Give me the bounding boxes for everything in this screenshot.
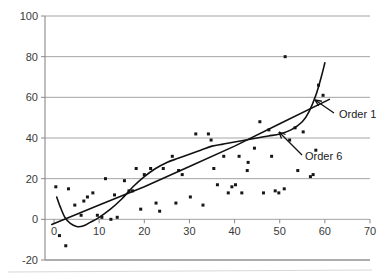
data-point-marker <box>116 216 119 219</box>
x-tick-label-0: 0 <box>51 225 57 237</box>
data-point-marker <box>230 185 233 188</box>
y-tick-label-20: 20 <box>26 173 38 185</box>
x-tick-label-40: 40 <box>228 225 240 237</box>
data-point-marker <box>123 179 126 182</box>
data-point-marker <box>135 167 138 170</box>
data-point-marker <box>309 175 312 178</box>
scatter-chart-figure: -20020406080100010203040506070 Order 1Or… <box>0 0 390 279</box>
data-point-marker <box>201 204 204 207</box>
data-point-marker <box>86 195 89 198</box>
x-tick-label-30: 30 <box>183 225 195 237</box>
chart-canvas: -20020406080100010203040506070 Order 1Or… <box>0 0 390 279</box>
y-tick-label-100: 100 <box>20 10 38 22</box>
fit-curve-order-1 <box>52 99 330 224</box>
data-point-marker <box>247 161 250 164</box>
annotation-arrow-order-6 <box>279 132 302 155</box>
data-point-marker <box>104 177 107 180</box>
fit-curves-group <box>52 63 330 227</box>
x-tick-label-10: 10 <box>93 225 105 237</box>
data-point-marker <box>270 155 273 158</box>
x-tick-label-20: 20 <box>138 225 150 237</box>
y-tick-label-40: 40 <box>26 132 38 144</box>
data-point-marker <box>58 234 61 237</box>
x-tick-label-70: 70 <box>364 225 376 237</box>
data-point-marker <box>174 202 177 205</box>
y-tick-label-80: 80 <box>26 51 38 63</box>
y-tick-label--20: -20 <box>22 254 38 266</box>
annotation-label-order-6: Order 6 <box>305 150 342 162</box>
data-point-marker <box>64 244 67 247</box>
scan-artifact-line <box>8 270 372 272</box>
annotation-label-order-1: Order 1 <box>339 108 376 120</box>
data-point-marker <box>155 202 158 205</box>
data-point-marker <box>212 167 215 170</box>
data-point-marker <box>312 173 315 176</box>
y-tick-label-0: 0 <box>32 213 38 225</box>
data-point-marker <box>253 147 256 150</box>
data-point-marker <box>222 155 225 158</box>
data-point-marker <box>284 55 287 58</box>
gridlines-group <box>45 16 370 260</box>
data-point-marker <box>207 132 210 135</box>
data-point-marker <box>181 173 184 176</box>
data-point-marker <box>96 214 99 217</box>
data-point-marker <box>240 191 243 194</box>
data-point-marker <box>54 185 57 188</box>
data-point-marker <box>246 169 249 172</box>
data-point-marker <box>277 191 280 194</box>
data-point-marker <box>113 193 116 196</box>
data-point-marker <box>274 189 277 192</box>
data-point-marker <box>234 183 237 186</box>
scan-artifact-group <box>8 270 372 272</box>
data-point-marker <box>162 167 165 170</box>
data-point-marker <box>227 191 230 194</box>
data-point-marker <box>322 94 325 97</box>
data-point-marker <box>216 183 219 186</box>
data-point-marker <box>194 132 197 135</box>
data-point-marker <box>149 167 152 170</box>
annotations-group: Order 1Order 6 <box>279 100 376 162</box>
data-point-marker <box>158 210 161 213</box>
data-point-marker <box>296 169 299 172</box>
data-point-marker <box>283 187 286 190</box>
data-point-marker <box>210 139 213 142</box>
data-point-marker <box>80 214 83 217</box>
data-point-marker <box>82 200 85 203</box>
data-point-marker <box>302 130 305 133</box>
data-point-marker <box>109 218 112 221</box>
data-point-marker <box>258 120 261 123</box>
x-tick-label-50: 50 <box>274 225 286 237</box>
data-point-marker <box>73 204 76 207</box>
data-point-marker <box>139 208 142 211</box>
data-point-marker <box>262 191 265 194</box>
data-point-marker <box>67 187 70 190</box>
fit-curve-order-6 <box>57 63 325 227</box>
data-point-marker <box>91 191 94 194</box>
x-tick-label-60: 60 <box>319 225 331 237</box>
y-tick-label-60: 60 <box>26 91 38 103</box>
data-markers-group <box>54 55 324 247</box>
data-point-marker <box>238 155 241 158</box>
data-point-marker <box>189 195 192 198</box>
data-point-marker <box>171 155 174 158</box>
